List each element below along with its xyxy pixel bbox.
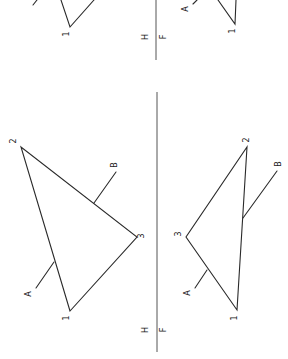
top-left-line-stub [33, 0, 37, 5]
left-line-a [36, 262, 54, 288]
right-line-a-label: A [183, 290, 192, 296]
right-line-b [243, 171, 277, 218]
top-partial-drawing: H F 1 A 1 [33, 0, 237, 60]
left-vertex-3-label: 3 [137, 233, 146, 238]
left-line-b-label: B [110, 162, 119, 168]
main-fold-label-h: H [141, 327, 150, 333]
right-line-b-label: B [274, 161, 283, 167]
right-view-f: 1 2 3 A B [174, 137, 283, 320]
main-fold-label-f: F [159, 327, 168, 332]
left-line-b [94, 172, 116, 203]
right-vertex-3-label: 3 [174, 231, 183, 236]
right-line-a [195, 270, 207, 288]
top-left-triangle-edges [61, 0, 94, 27]
right-triangle [186, 147, 247, 310]
left-line-a-label: A [24, 291, 33, 297]
top-right-triangle-edges [218, 0, 236, 24]
left-vertex-1-label: 1 [62, 315, 71, 320]
top-right-line-a-label: A [181, 6, 190, 12]
top-right-line-a [193, 0, 197, 4]
right-vertex-2-label: 2 [242, 137, 251, 142]
right-vertex-1-label: 1 [230, 315, 239, 320]
left-triangle [21, 147, 137, 311]
top-left-vertex-1-label: 1 [62, 31, 71, 36]
left-view-h: 1 2 3 A B [9, 138, 146, 320]
top-right-vertex-1-label: 1 [228, 28, 237, 33]
top-fold-label-f: F [159, 34, 168, 39]
left-vertex-2-label: 2 [9, 138, 18, 143]
top-fold-label-h: H [141, 34, 150, 40]
drawing-canvas: H F 1 A 1 H F 1 2 3 A B 1 2 3 A B [0, 0, 288, 359]
